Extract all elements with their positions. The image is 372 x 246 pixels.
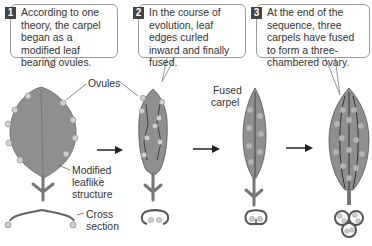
cross-section-label-line2: section [86,221,119,233]
step-text: In the course of evolution, leaf edges c… [149,7,241,70]
step-3-callout: 3 At the end of the sequence, three carp… [256,4,370,58]
fused-carpel-label-line1: Fused [213,85,242,97]
fused-carpel-label-line2: carpel [211,97,239,109]
leaf-with-ovules [5,87,78,200]
step-badge: 3 [251,7,262,19]
step-1-callout: 1 According to one theory, the carpel be… [10,4,118,58]
cross-section-three-carpels [335,211,363,237]
modified-label-line3: structure [72,189,112,201]
three-chambered-ovary [329,88,369,205]
cross-section-curling [142,210,168,224]
curling-leaf [139,89,167,200]
modified-label-line2: leaflike [72,177,104,189]
cross-section-open-leaf [5,210,76,228]
step-badge: 2 [133,7,144,19]
modified-label-line1: Modified [72,165,111,177]
step-badge: 1 [5,7,16,19]
step-text: According to one theory, the carpel bega… [21,7,113,70]
step-2-callout: 2 In the course of evolution, leaf edges… [138,4,246,58]
fused-carpel [243,88,266,205]
cross-section-fused [246,210,267,224]
ovules-label: Ovules [88,78,120,90]
step-text: At the end of the sequence, three carpel… [267,7,365,70]
cross-section-label-line1: Cross [86,209,113,221]
